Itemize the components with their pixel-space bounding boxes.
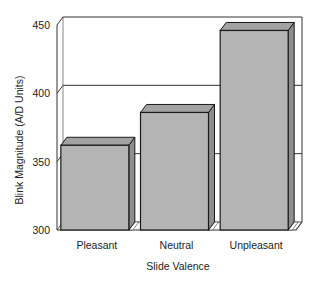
bar-top (61, 137, 135, 145)
bar-unpleasant (220, 22, 298, 230)
bars (61, 22, 298, 230)
bar-front (61, 145, 129, 230)
y-tick-label: 350 (32, 156, 50, 168)
y-axis-ticks: 300350400450 (32, 19, 50, 236)
x-axis-label: Slide Valence (146, 260, 210, 272)
bar-front (220, 30, 288, 230)
bar-side (129, 137, 135, 230)
y-tick-label: 400 (32, 87, 50, 99)
x-tick-label: Neutral (160, 239, 194, 251)
x-axis-ticks: PleasantNeutralUnpleasant (76, 239, 282, 251)
bar-side (209, 104, 215, 230)
bar-side (288, 22, 294, 230)
y-axis-label: Blink Magnitude (A/D Units) (13, 76, 25, 205)
bar-top (220, 22, 294, 30)
bar-front (141, 112, 209, 230)
bar-top (141, 104, 215, 112)
bar-neutral (141, 104, 219, 230)
x-tick-label: Pleasant (76, 239, 117, 251)
x-tick-label: Unpleasant (230, 239, 283, 251)
bar-pleasant (61, 137, 139, 230)
y-tick-label: 300 (32, 224, 50, 236)
y-tick-label: 450 (32, 19, 50, 31)
bar-chart: 300350400450 PleasantNeutralUnpleasant S… (0, 0, 321, 281)
